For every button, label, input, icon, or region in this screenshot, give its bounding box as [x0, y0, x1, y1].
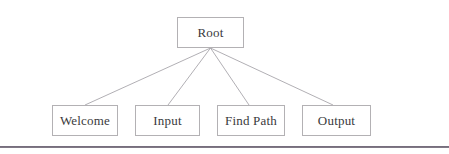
diagram-canvas: Root Welcome Input Find Path Output: [0, 0, 449, 154]
edge-root-output: [211, 48, 334, 105]
node-welcome-label: Welcome: [60, 114, 110, 127]
node-input: Input: [135, 105, 200, 136]
node-find-path-label: Find Path: [225, 114, 277, 127]
node-root: Root: [177, 17, 244, 48]
edge-root-welcome: [85, 48, 211, 105]
node-root-label: Root: [197, 26, 223, 39]
node-output: Output: [302, 105, 371, 136]
node-welcome: Welcome: [52, 105, 118, 136]
node-input-label: Input: [153, 114, 181, 127]
node-find-path: Find Path: [217, 105, 285, 136]
edge-root-findpath: [211, 48, 250, 105]
node-output-label: Output: [318, 114, 355, 127]
horizontal-rule: [0, 146, 449, 148]
edge-root-input: [168, 48, 211, 105]
